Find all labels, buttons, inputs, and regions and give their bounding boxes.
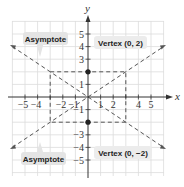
vertex-point-bottom bbox=[85, 120, 90, 125]
svg-text:Vertex (0, 2): Vertex (0, 2) bbox=[98, 39, 143, 48]
svg-text:5: 5 bbox=[149, 99, 154, 110]
svg-text:1: 1 bbox=[79, 79, 84, 90]
x-axis-label: x bbox=[174, 90, 180, 102]
callout-vertex-top: Vertex (0, 2) bbox=[94, 36, 147, 49]
svg-text:Asymptote: Asymptote bbox=[25, 35, 67, 44]
svg-text:1: 1 bbox=[98, 99, 103, 110]
svg-text:−5: −5 bbox=[73, 155, 84, 166]
callout-vertex-bottom: Vertex (0, −2) bbox=[94, 146, 152, 159]
x-tick-labels: −5 −4 −2 −1 1 2 4 5 bbox=[18, 99, 154, 110]
svg-text:Vertex (0, −2): Vertex (0, −2) bbox=[98, 149, 148, 158]
svg-text:−5: −5 bbox=[18, 99, 29, 110]
svg-text:5: 5 bbox=[79, 29, 84, 40]
vertex-point-top bbox=[85, 69, 90, 74]
y-axis-arrow-icon bbox=[86, 15, 91, 22]
callout-asymptote-bottom: Asymptote bbox=[21, 142, 66, 165]
y-axis-label: y bbox=[84, 2, 90, 14]
callout-asymptote-top: Asymptote bbox=[23, 32, 68, 57]
svg-text:4: 4 bbox=[136, 99, 141, 110]
svg-text:−3: −3 bbox=[73, 129, 84, 140]
svg-text:−4: −4 bbox=[31, 99, 42, 110]
svg-text:2: 2 bbox=[111, 99, 116, 110]
x-axis-arrow-icon bbox=[166, 95, 173, 100]
svg-text:4: 4 bbox=[79, 41, 84, 52]
svg-text:−4: −4 bbox=[73, 142, 84, 153]
hyperbola-chart: x y −5 −4 −2 −1 1 2 4 5 5 4 bbox=[0, 0, 184, 187]
svg-text:−2: −2 bbox=[56, 99, 67, 110]
svg-text:Asymptote: Asymptote bbox=[23, 155, 65, 164]
svg-text:3: 3 bbox=[79, 54, 84, 65]
svg-text:−1: −1 bbox=[73, 104, 84, 115]
